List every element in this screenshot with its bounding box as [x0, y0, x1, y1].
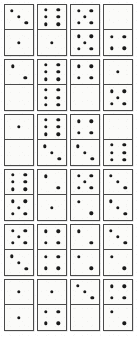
- domino-tile[interactable]: [103, 169, 133, 221]
- pip: [89, 267, 92, 270]
- pip: [90, 9, 93, 12]
- domino-tile[interactable]: [4, 169, 34, 221]
- pip: [90, 186, 93, 189]
- pip: [77, 200, 80, 203]
- pip: [83, 41, 86, 44]
- pip: [11, 180, 14, 183]
- pip: [44, 175, 47, 178]
- pip: [11, 212, 14, 215]
- pip: [122, 322, 125, 325]
- pip: [50, 290, 53, 293]
- domino-tile[interactable]: [37, 114, 67, 166]
- domino-tile[interactable]: [4, 4, 34, 56]
- pip: [44, 230, 47, 233]
- domino-tile[interactable]: [37, 224, 67, 276]
- pip: [83, 15, 86, 18]
- domino-half-bottom: [5, 85, 33, 110]
- domino-half-top: [38, 5, 66, 30]
- domino-half-top: [71, 5, 99, 30]
- domino-half-bottom: [38, 250, 66, 275]
- domino-tile[interactable]: [70, 224, 100, 276]
- domino-half-bottom: [5, 30, 33, 55]
- pip: [110, 35, 113, 38]
- pip: [89, 212, 92, 215]
- pip: [122, 47, 125, 50]
- domino-tile[interactable]: [70, 279, 100, 331]
- domino-tile[interactable]: [4, 114, 34, 166]
- pip: [90, 35, 93, 38]
- domino-half-top: [38, 280, 66, 305]
- pip: [56, 186, 59, 189]
- domino-tile[interactable]: [103, 279, 133, 331]
- domino-row: [4, 114, 134, 166]
- pip: [77, 9, 80, 12]
- pip: [122, 296, 125, 299]
- domino-tile[interactable]: [70, 59, 100, 111]
- pip: [122, 143, 125, 146]
- pip: [56, 132, 59, 135]
- pip: [44, 125, 47, 128]
- domino-half-top: [71, 170, 99, 195]
- pip: [109, 200, 112, 203]
- pip: [77, 255, 80, 258]
- pip: [124, 186, 127, 189]
- pip: [124, 241, 127, 244]
- domino-half-bottom: [5, 305, 33, 330]
- domino-half-bottom: [38, 305, 66, 330]
- pip: [44, 267, 47, 270]
- pip: [122, 158, 125, 161]
- pip: [110, 143, 113, 146]
- domino-row: [4, 59, 134, 111]
- pip: [77, 65, 80, 68]
- pip: [56, 255, 59, 258]
- domino-half-bottom: [104, 85, 132, 110]
- domino-tile[interactable]: [37, 59, 67, 111]
- domino-tile[interactable]: [37, 279, 67, 331]
- pip: [56, 118, 59, 121]
- domino-row: [4, 4, 134, 56]
- pip: [44, 22, 47, 25]
- pip: [44, 88, 47, 91]
- pip: [56, 88, 59, 91]
- pip: [44, 241, 47, 244]
- domino-tile[interactable]: [103, 114, 133, 166]
- pip: [116, 206, 119, 209]
- pip: [44, 255, 47, 258]
- pip: [122, 35, 125, 38]
- domino-tile[interactable]: [70, 114, 100, 166]
- pip: [91, 296, 94, 299]
- domino-tile[interactable]: [37, 169, 67, 221]
- domino-half-bottom: [71, 195, 99, 220]
- pip: [89, 131, 92, 134]
- domino-half-top: [38, 115, 66, 140]
- pip: [56, 241, 59, 244]
- pip: [77, 174, 80, 177]
- domino-row: [4, 224, 134, 276]
- domino-half-bottom: [5, 250, 33, 275]
- pip: [110, 47, 113, 50]
- pip: [116, 180, 119, 183]
- pip: [11, 187, 14, 190]
- domino-tile[interactable]: [103, 4, 133, 56]
- domino-tile[interactable]: [4, 224, 34, 276]
- pip: [123, 90, 126, 93]
- domino-tile[interactable]: [4, 59, 34, 111]
- pip: [56, 125, 59, 128]
- pip: [110, 255, 113, 258]
- domino-tile[interactable]: [103, 224, 133, 276]
- pip: [44, 132, 47, 135]
- domino-tile[interactable]: [37, 4, 67, 56]
- pip: [122, 267, 125, 270]
- pip: [56, 15, 59, 18]
- pip: [11, 173, 14, 176]
- domino-half-bottom: [71, 140, 99, 165]
- domino-tile[interactable]: [4, 279, 34, 331]
- pip: [24, 241, 27, 244]
- domino-half-top: [104, 170, 132, 195]
- domino-half-bottom: [104, 195, 132, 220]
- domino-tile[interactable]: [103, 59, 133, 111]
- domino-tile[interactable]: [70, 4, 100, 56]
- domino-half-top: [38, 225, 66, 250]
- domino-half-top: [5, 170, 33, 195]
- domino-tile[interactable]: [70, 169, 100, 221]
